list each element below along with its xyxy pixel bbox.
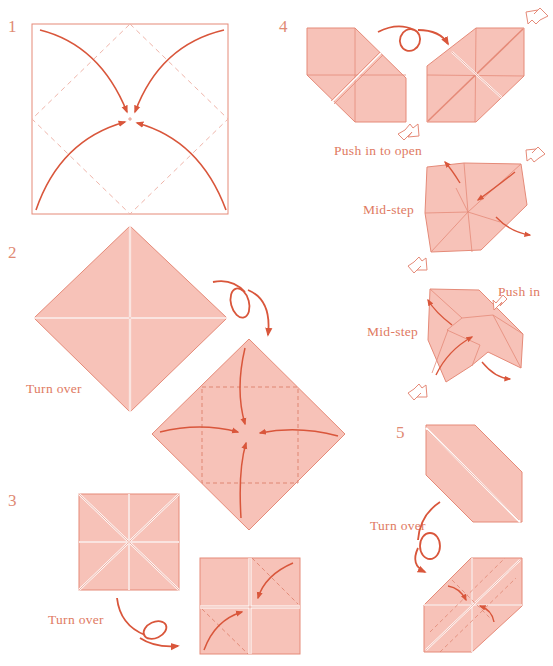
- turn-over-icon-step4: [378, 26, 448, 54]
- step4-left-shape: [307, 28, 406, 122]
- step4-mid-step-a: [425, 162, 530, 252]
- step5-flat-shape: [426, 425, 522, 522]
- turn-over-icon-step5: [415, 502, 440, 572]
- turn-over-icon-step2: [213, 281, 269, 335]
- turn-over-icon-step3: [117, 598, 178, 646]
- step3-square-flipped: [200, 558, 300, 654]
- step5-creased-shape: [424, 558, 522, 652]
- step4-mid-step-b: [428, 289, 523, 382]
- step3-square-blintzed: [79, 494, 179, 590]
- step1-square-paper: [32, 24, 228, 214]
- step4-right-shape: [427, 28, 524, 122]
- step2-diamond-creased: [34, 226, 227, 412]
- step2-diamond-fold-to-center: [152, 339, 345, 530]
